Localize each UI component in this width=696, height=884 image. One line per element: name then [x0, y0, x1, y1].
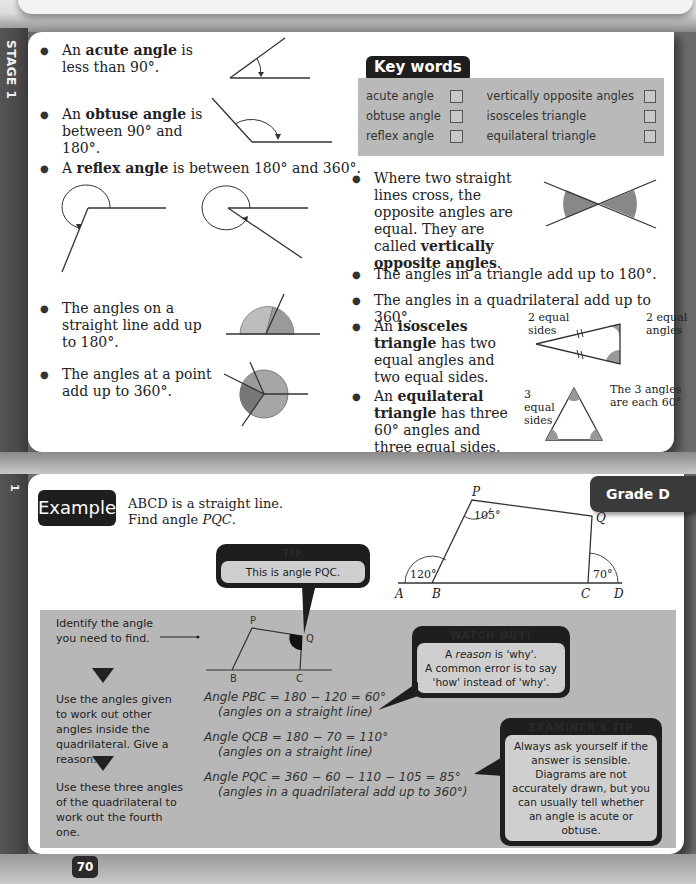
- section-number: 1: [8, 484, 21, 492]
- key-words-list: acute angle vertically opposite angles o…: [358, 78, 664, 156]
- isosceles-sides-annotation: 2 equal sides: [528, 311, 576, 337]
- watch-out-bubble: WATCH OUT! A reason is 'why'. A common e…: [412, 626, 570, 698]
- section-divider: [0, 452, 696, 474]
- step-3: Use these three angles of the quadrilate…: [56, 780, 186, 840]
- acute-angle-diagram: [228, 36, 318, 86]
- stage-label: STAGE 1: [4, 40, 18, 99]
- equilateral-angles-annotation: The 3 angles are each 60°: [610, 383, 694, 409]
- bullet-straight-line: The angles on a straight line add up to …: [62, 300, 212, 351]
- examiner-tip-bubble: EXAMINER'S TIP Always ask yourself if th…: [500, 718, 662, 846]
- step-arrow: [160, 634, 200, 640]
- key-word-checkbox[interactable]: [644, 130, 656, 143]
- svg-text:B: B: [431, 587, 441, 601]
- vertically-opposite-diagram: [544, 176, 664, 232]
- angles-at-point-diagram: [222, 356, 312, 426]
- bullet-triangle: The angles in a triangle add up to 180°.: [374, 266, 674, 283]
- calculation-1: Angle PBC = 180 − 120 = 60° (angles on a…: [204, 690, 386, 720]
- example-question: ABCD is a straight line. Find angle PQC.: [128, 496, 283, 528]
- previous-card-edge: [18, 0, 693, 14]
- reflex-angle-diagram-2: [202, 184, 322, 264]
- step-1: Identify the angle you need to find.: [56, 616, 176, 646]
- svg-text:P: P: [471, 485, 481, 499]
- bullet-reflex: A reflex angle is between 180° and 360°.: [62, 160, 362, 177]
- step-2: Use the angles given to work out other a…: [56, 692, 186, 767]
- calculation-3: Angle PQC = 360 − 60 − 110 − 105 = 85° (…: [204, 770, 468, 800]
- small-quadrilateral-diagram: P Q B C: [206, 616, 336, 686]
- key-words-panel: Key words acute angle vertically opposit…: [358, 56, 674, 152]
- svg-text:Q: Q: [596, 511, 606, 525]
- isosceles-angles-annotation: 2 equal angles: [646, 311, 690, 337]
- angle-B-label: 120°: [410, 568, 437, 581]
- key-word-label: obtuse angle: [366, 109, 450, 123]
- angle-C-label: 70°: [593, 568, 613, 581]
- key-word-label: equilateral triangle: [487, 129, 644, 143]
- key-word-checkbox[interactable]: [644, 110, 656, 123]
- svg-text:C: C: [296, 673, 303, 684]
- equilateral-sides-annotation: 3 equal sides: [524, 388, 564, 427]
- examiner-tip-pointer: [474, 756, 504, 786]
- bullet-vertically-opposite: Where two straight lines cross, the oppo…: [374, 170, 514, 272]
- bullet-acute: An acute angle is less than 90°.: [62, 42, 212, 76]
- svg-text:P: P: [250, 615, 256, 626]
- svg-text:C: C: [581, 587, 590, 601]
- reflex-angle-diagram-1: [62, 184, 172, 274]
- key-word-checkbox[interactable]: [450, 130, 462, 143]
- calculation-2: Angle QCB = 180 − 70 = 110° (angles on a…: [204, 730, 388, 760]
- bullet-obtuse: An obtuse angle is between 90° and 180°.: [62, 106, 212, 157]
- key-word-label: reflex angle: [366, 129, 450, 143]
- svg-text:Q: Q: [306, 633, 314, 644]
- obtuse-angle-diagram: [210, 96, 330, 146]
- key-word-checkbox[interactable]: [644, 90, 656, 103]
- tip-bubble: TIP This is angle PQC.: [216, 544, 370, 588]
- svg-text:B: B: [230, 673, 237, 684]
- bullet-equilateral: An equilateral triangle has three 60° an…: [374, 388, 514, 456]
- svg-text:A: A: [394, 587, 404, 601]
- quadrilateral-diagram: 120° 105° 70° P Q A B C D: [392, 488, 642, 598]
- top-band: [0, 0, 696, 32]
- down-arrow-icon: [92, 668, 114, 683]
- watch-out-pointer: [378, 682, 418, 712]
- page-number: 70: [72, 856, 98, 878]
- angle-P-label: 105°: [474, 509, 501, 522]
- svg-text:D: D: [613, 587, 624, 601]
- down-arrow-icon: [92, 756, 114, 771]
- key-word-checkbox[interactable]: [450, 90, 462, 103]
- bottom-band: [0, 854, 696, 884]
- key-word-checkbox[interactable]: [450, 110, 462, 123]
- key-word-label: vertically opposite angles: [487, 89, 644, 103]
- straight-line-angles-diagram: [226, 290, 326, 340]
- key-word-label: acute angle: [366, 89, 450, 103]
- bullet-point: The angles at a point add up to 360°.: [62, 366, 212, 400]
- example-badge: Example: [38, 490, 116, 526]
- key-word-label: isosceles triangle: [487, 109, 644, 123]
- bullet-isosceles: An isosceles triangle has two equal angl…: [374, 318, 514, 386]
